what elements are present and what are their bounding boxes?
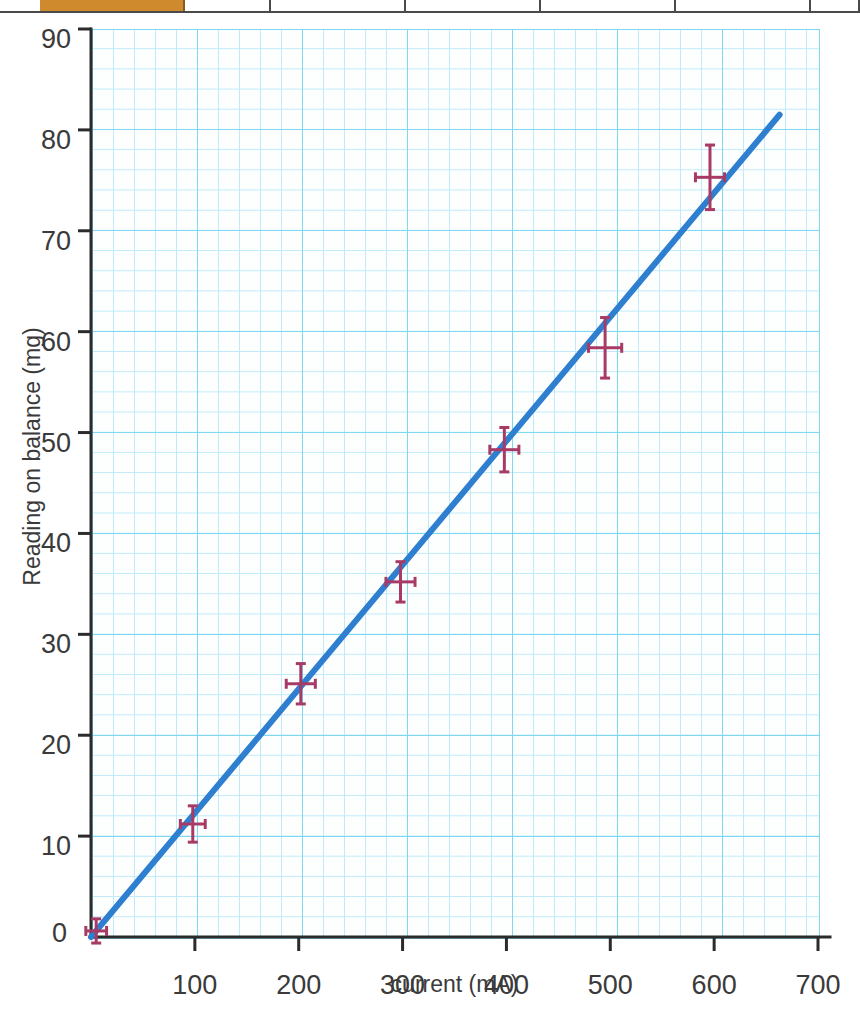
y-tick-label-30: 30 bbox=[0, 629, 71, 660]
y-tick-label-40: 40 bbox=[0, 528, 71, 559]
header-cell-4 bbox=[406, 0, 541, 11]
y-tick-label-50: 50 bbox=[0, 428, 71, 459]
data-point-6 bbox=[695, 145, 724, 210]
header-cell-7 bbox=[811, 0, 860, 11]
header-cell-6 bbox=[676, 0, 811, 11]
y-tick-label-80: 80 bbox=[0, 125, 71, 156]
x-tick-label-500: 500 bbox=[560, 970, 660, 1001]
data-point-1 bbox=[180, 806, 205, 842]
graph-figure: Reading on balance (mg) current (mA) 102… bbox=[0, 13, 860, 1015]
header-cell-2 bbox=[185, 0, 271, 11]
y-tick-label-10: 10 bbox=[0, 831, 71, 862]
table-header-strip bbox=[0, 0, 860, 13]
x-tick-label-200: 200 bbox=[249, 970, 349, 1001]
x-tick-label-300: 300 bbox=[353, 970, 453, 1001]
y-tick-label-90: 90 bbox=[0, 24, 71, 55]
line-of-best-fit bbox=[91, 115, 780, 937]
orange-header-cell bbox=[40, 0, 185, 11]
data-point-3 bbox=[386, 562, 415, 602]
x-tick-label-600: 600 bbox=[664, 970, 764, 1001]
x-tick-label-700: 700 bbox=[768, 970, 860, 1001]
x-tick-label-100: 100 bbox=[145, 970, 245, 1001]
plot-overlay bbox=[0, 13, 860, 1015]
y-tick-label-60: 60 bbox=[0, 327, 71, 358]
x-tick-label-400: 400 bbox=[456, 970, 556, 1001]
header-cell-5 bbox=[541, 0, 676, 11]
y-tick-label-20: 20 bbox=[0, 730, 71, 761]
y-tick-label-70: 70 bbox=[0, 226, 71, 257]
origin-label: 0 bbox=[52, 918, 67, 949]
data-point-5 bbox=[588, 318, 621, 379]
header-cell-3 bbox=[271, 0, 406, 11]
